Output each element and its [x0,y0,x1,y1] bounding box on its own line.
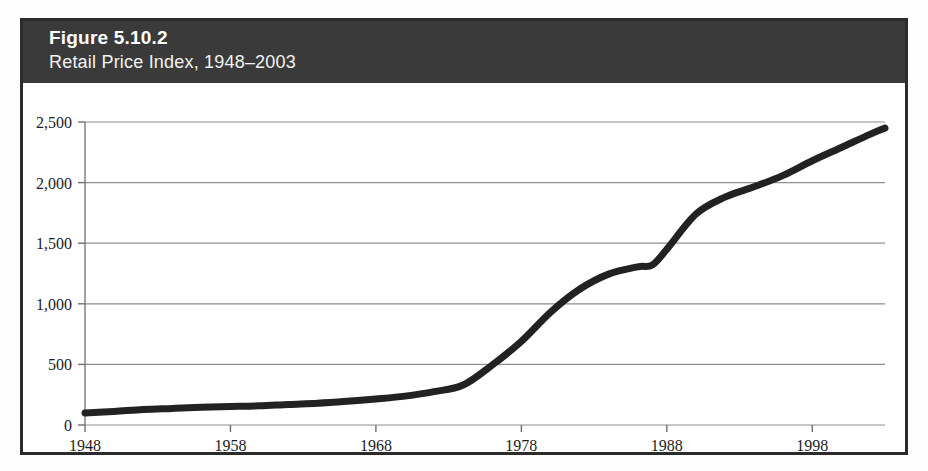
x-axis-tick-label: 1998 [796,437,828,452]
gridlines-group [85,122,885,425]
figure-subtitle: Retail Price Index, 1948–2003 [49,50,905,74]
line-chart: 05001,0001,5002,0002,500 194819581968197… [23,83,905,452]
figure-number-label: Figure 5.10.2 [49,26,905,50]
y-axis-tick-label: 1,000 [36,296,72,313]
x-axis-tick-label: 1978 [505,437,537,452]
x-axis-tick-label: 1958 [214,437,246,452]
y-axis-tick-label: 1,500 [36,235,72,252]
y-axis-tick-label: 2,000 [36,175,72,192]
y-axis-tick-label: 500 [48,356,72,373]
chart-plot-area: 05001,0001,5002,0002,500 194819581968197… [23,83,905,452]
x-axis-tick-label: 1948 [69,437,101,452]
figure-frame: Figure 5.10.2 Retail Price Index, 1948–2… [20,18,908,455]
x-axis-labels-group: 194819581968197819881998 [69,437,828,452]
y-axis-tick-label: 0 [64,417,72,434]
y-axis-ticks-group [78,122,85,425]
y-axis-tick-label: 2,500 [36,114,72,131]
figure-header: Figure 5.10.2 Retail Price Index, 1948–2… [23,21,905,83]
x-axis-tick-label: 1988 [651,437,683,452]
x-axis-ticks-group [85,425,812,432]
x-axis-tick-label: 1968 [360,437,392,452]
y-axis-labels-group: 05001,0001,5002,0002,500 [36,114,72,434]
data-series-line [85,128,885,413]
figure-container: Figure 5.10.2 Retail Price Index, 1948–2… [0,0,928,471]
